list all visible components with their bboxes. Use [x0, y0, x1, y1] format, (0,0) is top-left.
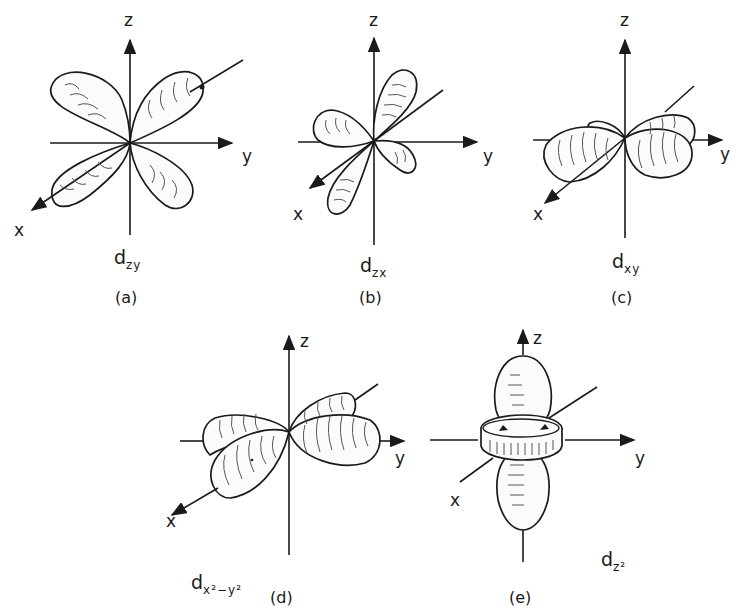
lobe-lower-right [130, 143, 193, 208]
panel-c-y-label: y [720, 146, 730, 163]
panel-b-x-label: x [293, 206, 303, 223]
panel-d-y-label: y [395, 450, 405, 467]
lobe-left [313, 110, 374, 147]
lobe-front-right [625, 129, 692, 178]
panel-c-diagram [533, 40, 722, 238]
panel-e-z-label: z [533, 330, 542, 347]
panel-a-x-label: x [14, 222, 24, 239]
panel-e-y-label: y [635, 450, 645, 467]
panel-a-caption: (a) [115, 290, 137, 306]
panel-d-diagram [172, 336, 404, 555]
panel-d-x-label: x [166, 513, 176, 530]
panel-a-orbital-label: dzy [114, 248, 141, 271]
panel-e-orbital-label: dz² [601, 550, 626, 573]
panel-a-y-label: y [242, 148, 252, 165]
x-axis-back [549, 387, 597, 418]
panel-b-y-label: y [483, 148, 493, 165]
panel-c-x-label: x [533, 206, 543, 223]
panel-c-z-label: z [620, 12, 629, 29]
panel-b-caption: (b) [359, 290, 382, 306]
lobe-front-left [544, 127, 625, 182]
lobe-upper-left [51, 72, 130, 143]
x-axis [460, 458, 493, 482]
panel-d-z-label: z [300, 333, 309, 350]
panel-e-x-label: x [450, 492, 460, 509]
panel-d-caption: (d) [270, 590, 293, 606]
panel-a-z-label: z [124, 12, 133, 29]
lobe-upper [374, 70, 417, 141]
lobe-lower [328, 141, 374, 214]
panel-b-orbital-label: dzx [360, 256, 387, 279]
panel-a-diagram [32, 40, 243, 235]
lobe-upper-right [130, 72, 203, 143]
x-axis-back [355, 384, 378, 400]
lobe-right [374, 141, 416, 173]
panel-c-orbital-label: dxy [612, 252, 640, 275]
lobe-lower [497, 450, 549, 530]
panel-c-caption: (c) [611, 290, 632, 306]
x-axis-back [665, 86, 694, 112]
panel-e-diagram [430, 330, 634, 562]
x-axis [172, 488, 218, 515]
panel-b-z-label: z [369, 12, 378, 29]
panel-d-orbital-label: dx²−y² [191, 573, 242, 596]
panel-e-caption: (e) [509, 590, 531, 606]
panel-b-diagram [298, 38, 477, 245]
